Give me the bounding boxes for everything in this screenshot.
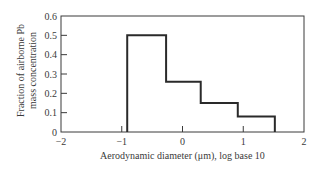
y-axis-label-line: mass concentration	[27, 32, 38, 109]
y-tick-label: 0.6	[45, 11, 58, 22]
y-tick-label: 0.4	[45, 49, 58, 60]
y-axis-label-line: Fraction of airborne Pb	[15, 24, 26, 117]
x-tick-label: −1	[116, 136, 127, 147]
y-tick-label: 0.2	[45, 88, 58, 99]
histogram-chart: Fraction of airborne Pbmass concentratio…	[0, 0, 321, 171]
plot-frame	[61, 16, 304, 132]
y-tick-label: 0.3	[45, 69, 58, 80]
step-histogram-line	[127, 35, 275, 132]
x-axis-ticks: −2−1012	[56, 126, 307, 147]
y-tick-label: 0.1	[45, 107, 58, 118]
y-axis-label: Fraction of airborne Pbmass concentratio…	[15, 24, 38, 117]
x-tick-label: 2	[302, 136, 307, 147]
x-tick-label: 0	[180, 136, 185, 147]
y-tick-label: 0.5	[45, 30, 58, 41]
x-tick-label: −2	[56, 136, 67, 147]
x-tick-label: 1	[241, 136, 246, 147]
x-axis-label: Aerodynamic diameter (μm), log base 10	[100, 150, 265, 162]
y-axis-ticks: 00.10.20.30.40.50.6	[45, 11, 68, 138]
